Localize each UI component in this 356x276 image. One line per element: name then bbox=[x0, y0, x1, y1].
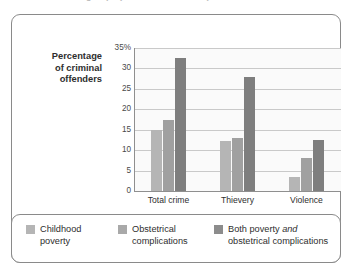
bar-violence-series-2 bbox=[313, 140, 324, 191]
legend-label-series-2: Both poverty and obstetrical complicatio… bbox=[228, 224, 328, 247]
y-tick-label-30: 30 bbox=[105, 64, 131, 72]
legend-item-both-poverty-and-obstetrical-complications: Both poverty and obstetrical complicatio… bbox=[214, 224, 340, 247]
y-tick-label-20: 20 bbox=[105, 105, 131, 113]
bar-total-crime-series-2 bbox=[175, 58, 186, 191]
bar-thievery-series-0 bbox=[220, 141, 231, 191]
legend-label-series-0-line-1: Childhood bbox=[40, 224, 81, 234]
bar-violence-series-1 bbox=[301, 158, 312, 191]
y-tick-label-35: 35% bbox=[105, 44, 131, 52]
y-axis-title-line-3: offenders bbox=[30, 74, 102, 86]
bar-total-crime-series-0 bbox=[151, 130, 162, 191]
bar-group-thievery bbox=[220, 48, 255, 191]
legend-label-series-0: Childhood poverty bbox=[40, 224, 81, 247]
y-axis-line bbox=[134, 48, 135, 192]
legend-label-series-1-line-1: Obstetrical bbox=[132, 224, 176, 234]
legend-swatch-icon-series-0 bbox=[26, 225, 35, 234]
y-tick-label-10: 10 bbox=[105, 146, 131, 154]
legend-item-childhood-poverty: Childhood poverty bbox=[26, 224, 104, 247]
legend-label-series-0-line-2: poverty bbox=[40, 236, 70, 246]
legend-label-series-1: Obstetrical complications bbox=[132, 224, 188, 247]
figure-caption-text: groups (based on Table 17.3). bbox=[86, 0, 212, 1]
legend-label-series-2-line-2: obstetrical complications bbox=[228, 236, 328, 246]
bar-thievery-series-2 bbox=[244, 77, 255, 191]
bar-group-violence bbox=[289, 48, 324, 191]
legend-label-series-2-line-1-emphasis: and bbox=[282, 224, 297, 234]
y-axis-title: Percentage of criminal offenders bbox=[30, 51, 102, 86]
y-tick-label-15: 15 bbox=[105, 126, 131, 134]
y-axis-title-line-1: Percentage bbox=[30, 51, 102, 63]
y-tick-label-5: 5 bbox=[105, 167, 131, 175]
legend-swatch-icon-series-2 bbox=[214, 225, 223, 234]
figure-caption-strip: groups (based on Table 17.3). bbox=[0, 0, 356, 9]
legend-item-obstetrical-complications: Obstetrical complications bbox=[118, 224, 206, 247]
x-axis-line bbox=[134, 191, 341, 192]
legend-label-series-1-line-2: complications bbox=[132, 236, 188, 246]
legend-swatch-icon-series-1 bbox=[118, 225, 127, 234]
chart-legend: Childhood poverty Obstetrical complicati… bbox=[11, 214, 341, 263]
x-tick-label-total-crime: Total crime bbox=[134, 195, 203, 205]
bar-thievery-series-1 bbox=[232, 138, 243, 191]
x-tick-label-violence: Violence bbox=[272, 195, 341, 205]
plot-area bbox=[134, 48, 341, 191]
y-tick-label-0: 0 bbox=[105, 187, 131, 195]
legend-label-series-2-line-1-pre: Both poverty bbox=[228, 224, 282, 234]
y-axis-title-line-2: of criminal bbox=[30, 63, 102, 75]
y-tick-label-25: 25 bbox=[105, 85, 131, 93]
bar-total-crime-series-1 bbox=[163, 120, 174, 192]
x-tick-label-thievery: Thievery bbox=[203, 195, 272, 205]
bar-group-total-crime bbox=[151, 48, 186, 191]
bar-violence-series-0 bbox=[289, 177, 300, 191]
y-axis-tick-labels: 35%302520151050 bbox=[104, 48, 131, 192]
